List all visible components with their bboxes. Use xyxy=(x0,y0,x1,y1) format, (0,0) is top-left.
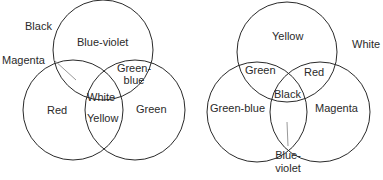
left-diagram-left-circle xyxy=(23,60,123,160)
label-green: Green xyxy=(136,103,167,115)
label-magenta: Magenta xyxy=(2,54,45,66)
label-white-center: White xyxy=(87,91,115,103)
label-blue-violet-2: violet xyxy=(268,162,308,174)
label-magenta: Magenta xyxy=(315,102,358,114)
label-yellow-top: Yellow xyxy=(272,30,303,42)
label-red: Red xyxy=(47,104,67,116)
label-yellow: Yellow xyxy=(87,112,118,124)
label-red: Red xyxy=(304,66,324,78)
label-black-outside: Black xyxy=(25,20,52,32)
blue-violet-pointer-line xyxy=(287,122,288,146)
label-green: Green xyxy=(245,64,276,76)
label-green-blue-2: blue xyxy=(114,74,154,86)
label-blue-violet: Blue-violet xyxy=(77,36,128,48)
label-green-blue: Green-blue xyxy=(210,102,265,114)
label-blue-violet-1: Blue- xyxy=(268,149,308,161)
right-diagram-top-circle xyxy=(237,2,337,102)
label-green-blue-1: Green- xyxy=(114,62,154,74)
venn-diagrams xyxy=(0,0,383,180)
label-black-center: Black xyxy=(274,88,301,100)
label-white-outside: White xyxy=(352,38,380,50)
